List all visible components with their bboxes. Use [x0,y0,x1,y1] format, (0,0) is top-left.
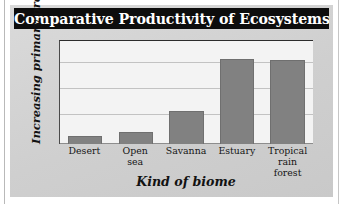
x-tick-label-savanna: Savanna [161,146,212,172]
x-axis-label: Kind of biome [59,174,313,189]
bar-slot [161,41,212,144]
x-tick-label-open-sea: Opensea [110,146,161,172]
bar-tropical-rain-forest [270,60,304,144]
bar-estuary [220,59,254,144]
bar-savanna [169,111,203,144]
page-rule-right [338,0,339,204]
x-tick-label-tropical-rain-forest: Tropicalrain forest [262,146,313,172]
plot-area [59,40,313,144]
bar-slot [262,41,313,144]
bar-open-sea [119,132,153,144]
y-axis-label-container: Increasing primary productivity [16,40,56,144]
y-axis-label: Increasing primary productivity [30,40,43,144]
x-axis-tick-labels: DesertOpenseaSavannaEstuaryTropicalrain … [59,146,313,172]
x-tick-label-estuary: Estuary [211,146,262,172]
x-tick-label-desert: Desert [59,146,110,172]
bar-desert [68,136,102,144]
page-rule-left [4,0,5,204]
bar-slot [111,41,162,144]
chart-title: Comparative Productivity of Ecosystems [14,11,329,27]
bars-group [60,41,313,144]
bar-slot [60,41,111,144]
bar-slot [212,41,263,144]
chart-title-bar: Comparative Productivity of Ecosystems [14,8,329,29]
figure-container: Comparative Productivity of Ecosystems I… [0,0,343,204]
